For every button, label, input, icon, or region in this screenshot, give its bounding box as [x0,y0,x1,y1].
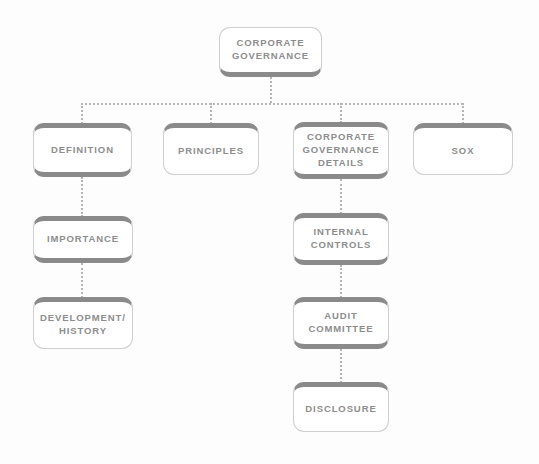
node-development-history[interactable]: DEVELOPMENT/ HISTORY [33,297,133,349]
node-label-corporate-governance: CORPORATE GOVERNANCE [232,37,309,63]
node-principles[interactable]: PRINCIPLES [163,123,259,175]
connector-level1-bus [81,103,463,105]
node-label-internal-controls: INTERNAL CONTROLS [311,226,372,252]
connector-importance-to-development [81,263,83,298]
connector-definition-to-importance [81,177,83,217]
connector-details-to-internal-controls [340,179,342,214]
node-label-sox: SOX [452,145,475,158]
node-corporate-governance-details[interactable]: CORPORATE GOVERNANCE DETAILS [293,122,389,179]
node-label-disclosure: DISCLOSURE [305,403,376,416]
connector-bus-to-definition [81,103,83,124]
node-label-audit-committee: AUDIT COMMITTEE [308,310,373,336]
diagram-canvas: CORPORATE GOVERNANCEDEFINITIONPRINCIPLES… [0,0,539,464]
node-corporate-governance[interactable]: CORPORATE GOVERNANCE [219,27,322,77]
node-audit-committee[interactable]: AUDIT COMMITTEE [293,297,389,349]
connector-bus-to-sox [462,103,464,124]
node-label-principles: PRINCIPLES [178,145,244,158]
connector-bus-to-principles [210,103,212,124]
node-disclosure[interactable]: DISCLOSURE [293,382,389,432]
node-label-definition: DEFINITION [51,144,114,157]
connector-internal-controls-to-audit [340,265,342,298]
connector-bus-to-details [340,103,342,123]
node-importance[interactable]: IMPORTANCE [33,216,133,263]
connector-root-stem [270,77,272,103]
node-definition[interactable]: DEFINITION [33,123,132,177]
node-label-importance: IMPORTANCE [47,233,119,246]
node-label-development-history: DEVELOPMENT/ HISTORY [40,312,126,338]
connector-audit-to-disclosure [340,349,342,383]
node-label-corporate-governance-details: CORPORATE GOVERNANCE DETAILS [302,131,379,169]
node-internal-controls[interactable]: INTERNAL CONTROLS [293,213,389,265]
node-sox[interactable]: SOX [413,123,513,175]
